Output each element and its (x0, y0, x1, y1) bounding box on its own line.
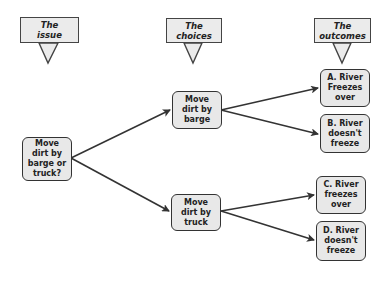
node-root: Move dirt by barge or truck? (22, 137, 72, 181)
edge-truck-c (221, 195, 314, 211)
outcomes-pointer (333, 43, 351, 63)
header-outcomes: The outcomes (314, 18, 371, 43)
header-issue: The issue (20, 17, 79, 43)
header-choices: The choices (166, 18, 222, 43)
edge-barge-a (221, 88, 318, 110)
node-outcome-c-label: C. River freezes over (323, 180, 358, 210)
node-outcome-b-label: B. River doesn't freeze (327, 119, 362, 149)
choices-pointer (184, 43, 202, 63)
node-outcome-a-label: A. River Freezes over (327, 73, 363, 103)
edge-root-barge (71, 110, 170, 158)
edge-barge-b (221, 110, 318, 134)
header-issue-label: The issue (37, 20, 62, 40)
node-root-label: Move dirt by barge or truck? (28, 139, 66, 179)
node-truck: Move dirt by truck (171, 194, 221, 231)
node-barge: Move dirt by barge (172, 91, 222, 129)
header-choices-label: The choices (176, 21, 212, 41)
header-outcomes-label: The outcomes (319, 21, 366, 41)
node-outcome-d-label: D. River doesn't freeze (323, 226, 359, 256)
node-outcome-c: C. River freezes over (316, 176, 366, 214)
node-barge-label: Move dirt by barge (182, 95, 212, 125)
node-truck-label: Move dirt by truck (181, 198, 211, 228)
node-outcome-b: B. River doesn't freeze (320, 114, 370, 153)
edge-truck-d (221, 211, 314, 240)
edge-root-truck (71, 158, 169, 211)
node-outcome-a: A. River Freezes over (320, 69, 370, 107)
node-outcome-d: D. River doesn't freeze (316, 221, 366, 261)
issue-pointer (39, 43, 58, 63)
